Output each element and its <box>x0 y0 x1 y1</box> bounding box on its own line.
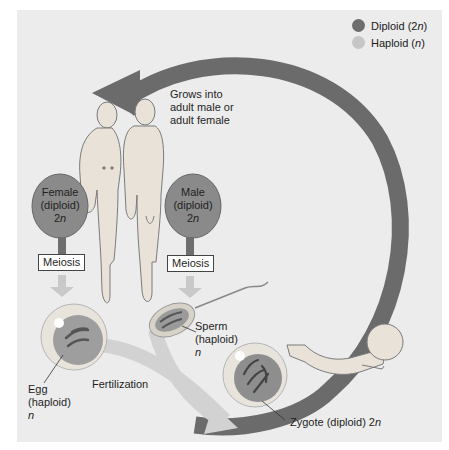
egg-label: Egg (haploid) n <box>28 383 71 422</box>
meiosis-female-box: Meiosis <box>38 254 85 271</box>
legend-diploid-label: Diploid (2n) <box>371 20 427 32</box>
zygote-label: Zygote (diploid) 2n <box>290 416 381 429</box>
meiosis-male-box: Meiosis <box>167 255 214 272</box>
sperm-label: Sperm (haploid) n <box>195 320 238 359</box>
male-diploid-label: Male (diploid) 2n <box>165 186 221 225</box>
female-diploid-label: Female (diploid) 2n <box>32 186 88 225</box>
baby-figure <box>287 324 403 374</box>
legend-haploid: Haploid (n) <box>352 36 425 49</box>
male-haploid-arrow <box>178 276 202 298</box>
adult-male-figure <box>123 99 163 302</box>
diploid-swatch <box>352 19 365 32</box>
legend-diploid: Diploid (2n) <box>352 19 427 32</box>
grows-into-label: Grows into adult male or adult female <box>170 88 234 127</box>
egg-cell <box>41 304 107 383</box>
female-haploid-arrow <box>50 275 74 297</box>
legend-haploid-label: Haploid (n) <box>371 37 425 49</box>
fertilization-label: Fertilization <box>92 378 148 391</box>
haploid-swatch <box>352 36 365 49</box>
